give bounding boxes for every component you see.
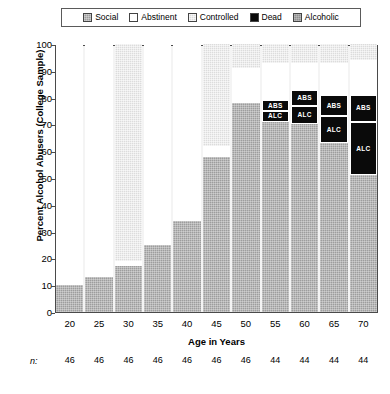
- bar-segment-abstinent: [262, 63, 289, 101]
- bar-segment-abstinent: [320, 63, 347, 95]
- bar-age-25[interactable]: [85, 46, 112, 312]
- sample-size-value: 46: [114, 356, 142, 365]
- bar-segment-controlled: [232, 44, 259, 68]
- bar-segment-dead-abs: ABS: [320, 95, 347, 116]
- sample-size-value: 46: [173, 356, 201, 365]
- x-tick-label: 35: [144, 319, 172, 329]
- sample-size-value: 44: [261, 356, 289, 365]
- segment-label-alc: ALC: [292, 112, 317, 119]
- bar-segment-social: [262, 122, 289, 312]
- bar-segment-social: [203, 157, 230, 312]
- bar-age-30[interactable]: [115, 46, 142, 312]
- segment-label-alc: ALC: [263, 113, 288, 120]
- bar-segment-social: [115, 266, 142, 312]
- bar-age-70[interactable]: ALCABS: [350, 46, 377, 312]
- bar-segment-abstinent: [291, 63, 318, 90]
- bar-segment-abstinent: [56, 44, 83, 285]
- segment-label-abs: ABS: [321, 102, 346, 109]
- bar-age-65[interactable]: ALCABS: [320, 46, 347, 312]
- segment-label-alc: ALC: [321, 127, 346, 134]
- bar-segment-social: [232, 103, 259, 312]
- plot-area: ALCABSALCABSALCABSALCABS: [55, 45, 378, 313]
- x-tick-label: 70: [349, 319, 377, 329]
- y-tick-label: 20: [18, 254, 52, 264]
- sample-size-value: 46: [232, 356, 260, 365]
- bar-age-20[interactable]: [56, 46, 83, 312]
- sample-size-value: 46: [56, 356, 84, 365]
- bar-age-55[interactable]: ALCABS: [262, 46, 289, 312]
- bar-segment-dead-alc: ALC: [262, 111, 289, 122]
- bar-segment-dead-alc: ALC: [291, 106, 318, 125]
- bar-segment-abstinent: [144, 44, 171, 245]
- bar-segment-social: [350, 175, 377, 312]
- sample-size-value: 46: [85, 356, 113, 365]
- bar-age-50[interactable]: [232, 46, 259, 312]
- bar-segment-abstinent: [115, 261, 142, 266]
- y-tick-label: 30: [18, 228, 52, 238]
- x-tick-label: 60: [291, 319, 319, 329]
- bar-segment-abstinent: [85, 44, 112, 277]
- segment-label-abs: ABS: [351, 105, 376, 112]
- bar-segment-social: [56, 285, 83, 312]
- bar-segment-social: [173, 221, 200, 312]
- bar-segment-dead-abs: ABS: [350, 95, 377, 122]
- bar-segment-controlled: [203, 44, 230, 146]
- bar-segment-dead-alc: ALC: [320, 116, 347, 143]
- y-tick-label: 90: [18, 67, 52, 77]
- segment-label-abs: ABS: [263, 102, 288, 109]
- bar-segment-dead-alc: ALC: [350, 122, 377, 176]
- segment-label-abs: ABS: [292, 94, 317, 101]
- y-tick-label: 100: [18, 40, 52, 50]
- x-tick-label: 20: [56, 319, 84, 329]
- bar-segment-social: [85, 277, 112, 312]
- x-tick-label: 45: [203, 319, 231, 329]
- segment-label-alc: ALC: [351, 145, 376, 152]
- bar-segment-abstinent: [350, 60, 377, 95]
- y-tick-label: 50: [18, 174, 52, 184]
- x-tick-label: 30: [114, 319, 142, 329]
- y-tick-label: 0: [18, 308, 52, 318]
- bar-age-60[interactable]: ALCABS: [291, 46, 318, 312]
- x-tick-label: 40: [173, 319, 201, 329]
- y-tick-label: 70: [18, 120, 52, 130]
- x-tick-label: 55: [261, 319, 289, 329]
- bar-segment-controlled: [350, 44, 377, 60]
- bar-segment-abstinent: [232, 68, 259, 103]
- y-tick-mark: [51, 313, 55, 314]
- x-tick-label: 50: [232, 319, 260, 329]
- sample-size-value: 44: [291, 356, 319, 365]
- sample-size-value: 46: [203, 356, 231, 365]
- x-tick-label: 25: [85, 319, 113, 329]
- sample-size-value: 44: [349, 356, 377, 365]
- bar-age-40[interactable]: [173, 46, 200, 312]
- bar-segment-social: [291, 124, 318, 312]
- bar-segment-controlled: [262, 44, 289, 63]
- x-tick-label: 65: [320, 319, 348, 329]
- sample-size-label: n:: [30, 356, 38, 366]
- bar-segment-controlled: [115, 44, 142, 261]
- y-tick-label: 40: [18, 201, 52, 211]
- bar-age-45[interactable]: [203, 46, 230, 312]
- bar-segment-social: [320, 143, 347, 312]
- sample-size-value: 44: [320, 356, 348, 365]
- x-axis-title: Age in Years: [55, 336, 378, 347]
- y-tick-label: 80: [18, 94, 52, 104]
- bar-segment-controlled: [320, 44, 347, 63]
- bar-age-35[interactable]: [144, 46, 171, 312]
- y-tick-label: 10: [18, 281, 52, 291]
- sample-size-value: 46: [144, 356, 172, 365]
- bar-segment-dead-abs: ABS: [291, 90, 318, 106]
- bar-segment-social: [144, 245, 171, 312]
- bar-segment-controlled: [291, 44, 318, 63]
- bar-segment-dead-abs: ABS: [262, 100, 289, 111]
- y-tick-label: 60: [18, 147, 52, 157]
- bar-segment-abstinent: [203, 146, 230, 157]
- bar-segment-abstinent: [173, 44, 200, 221]
